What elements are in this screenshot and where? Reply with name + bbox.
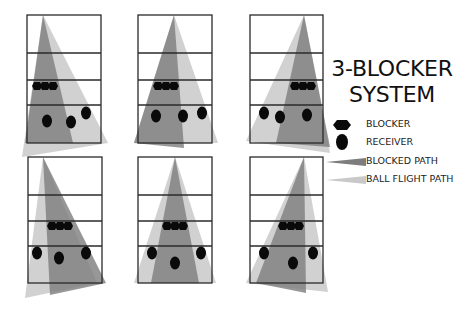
legend-label-blocked-path: BLOCKED PATH <box>366 155 438 166</box>
title-line-2: SYSTEM <box>330 82 454 108</box>
receiver-icon <box>259 247 269 260</box>
ball-flight-path-swatch <box>326 176 366 184</box>
receiver-icon <box>196 247 206 260</box>
court-panel-3 <box>246 15 330 153</box>
receiver-icon <box>275 111 285 124</box>
receiver-icon <box>336 134 348 150</box>
court-panel-1 <box>22 15 108 157</box>
court-panel-6 <box>246 157 328 293</box>
receiver-icon <box>42 115 52 128</box>
blocker-icon <box>306 82 316 90</box>
blocker-icon <box>294 222 304 230</box>
receiver-icon <box>81 247 91 260</box>
receiver-icon <box>302 109 312 122</box>
blocker-icon <box>169 82 179 90</box>
diagram-canvas: 3-BLOCKER SYSTEM BLOCKER RECEIVER BLOCKE… <box>0 0 459 310</box>
receiver-icon <box>151 110 161 123</box>
blocked-path-swatch <box>326 158 366 166</box>
court-panel-2 <box>134 15 218 148</box>
receiver-icon <box>66 116 76 129</box>
court-panel-4 <box>25 157 106 298</box>
receiver-icon <box>259 107 269 120</box>
blocker-icon <box>63 222 73 230</box>
receiver-icon <box>197 107 207 120</box>
legend-label-ball-flight-path: BALL FLIGHT PATH <box>366 173 453 184</box>
receiver-icon <box>81 107 91 120</box>
blocker-icon <box>178 222 188 230</box>
court-panel-5 <box>134 157 216 283</box>
receiver-icon <box>54 252 64 265</box>
blocker-icon <box>333 120 351 130</box>
blocker-icon <box>48 82 58 90</box>
legend-label-blocker: BLOCKER <box>366 118 410 129</box>
legend-icons <box>326 118 368 188</box>
receiver-icon <box>170 257 180 270</box>
legend-label-receiver: RECEIVER <box>366 136 413 147</box>
receiver-icon <box>147 247 157 260</box>
title-line-1: 3-BLOCKER <box>330 56 454 82</box>
receiver-icon <box>308 247 318 260</box>
receiver-icon <box>178 110 188 123</box>
receiver-icon <box>32 247 42 260</box>
receiver-icon <box>288 257 298 270</box>
